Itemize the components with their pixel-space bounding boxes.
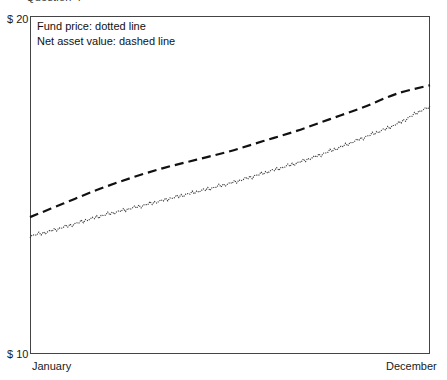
x-axis-end-label: December: [386, 360, 437, 373]
cut-off-heading: Question 4: [26, 0, 81, 3]
y-axis-max-label: $ 20: [7, 13, 28, 25]
x-axis-start-label: January: [32, 360, 71, 373]
y-axis-min-label: $ 10: [7, 348, 28, 360]
plot-area: [30, 16, 430, 354]
legend: Fund price: dotted line Net asset value:…: [37, 19, 175, 49]
legend-item-net-asset-value: Net asset value: dashed line: [37, 34, 175, 49]
legend-item-fund-price: Fund price: dotted line: [37, 19, 175, 34]
